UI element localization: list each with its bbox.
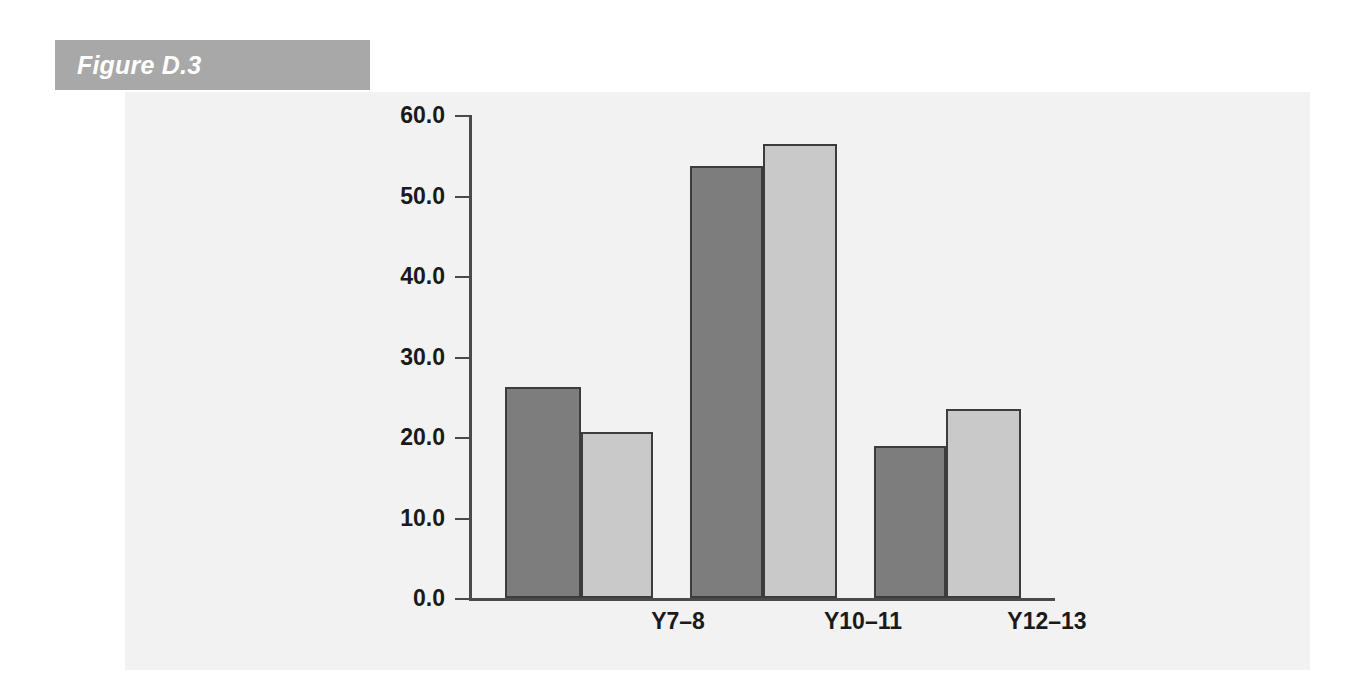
- figure-banner: Figure D.3: [55, 40, 370, 90]
- y-axis-tick-label: 40.0: [169, 263, 469, 290]
- x-axis-category-label: Y7–8: [578, 608, 778, 635]
- y-axis-tick-label: 50.0: [169, 182, 469, 209]
- bar: [874, 446, 946, 598]
- bar: [505, 387, 581, 598]
- y-axis-line: [469, 115, 472, 598]
- x-axis-category-label: Y10–11: [763, 608, 963, 635]
- chart-panel: 0.010.020.030.040.050.060.0 Y7–8Y10–11Y1…: [125, 92, 1310, 670]
- x-axis-line: [469, 598, 1055, 601]
- y-axis-tick-label: 60.0: [169, 102, 469, 129]
- bar: [690, 166, 763, 598]
- y-axis-tick-label: 20.0: [169, 424, 469, 451]
- bar: [946, 409, 1021, 598]
- y-axis-tick-label: 10.0: [169, 504, 469, 531]
- x-axis-category-label: Y12–13: [947, 608, 1147, 635]
- y-axis-tick-label: 0.0: [169, 585, 469, 612]
- y-axis-tick-label: 30.0: [169, 343, 469, 370]
- bar: [763, 144, 837, 598]
- bar-chart-plot-area: 0.010.020.030.040.050.060.0 Y7–8Y10–11Y1…: [125, 92, 1310, 670]
- figure-banner-label: Figure D.3: [77, 51, 201, 80]
- bar: [581, 432, 653, 598]
